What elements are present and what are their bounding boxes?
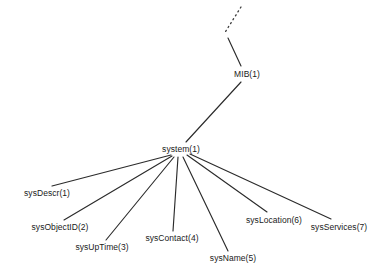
node-label-sysContact: sysContact(4)	[145, 233, 198, 243]
edge-ellipsis-up	[224, 7, 241, 34]
edge-system-sysContact	[173, 157, 178, 231]
edge-ellipsis-mib	[228, 38, 241, 66]
node-label-sysDescr: sysDescr(1)	[24, 188, 70, 198]
node-label-sysUpTime: sysUpTime(3)	[75, 242, 128, 252]
edge-system-sysObjectID	[64, 156, 172, 220]
mib-tree-diagram: MIB(1)system(1)sysDescr(1)sysObjectID(2)…	[0, 0, 381, 276]
edge-mib-system	[186, 82, 241, 142]
node-label-system: system(1)	[162, 144, 200, 154]
node-label-sysObjectID: sysObjectID(2)	[32, 222, 89, 232]
edge-system-sysServices	[190, 154, 331, 219]
node-label-sysServices: sysServices(7)	[311, 222, 367, 232]
node-label-mib: MIB(1)	[234, 69, 260, 79]
node-label-sysLocation: sysLocation(6)	[246, 215, 302, 225]
node-label-sysName: sysName(5)	[210, 253, 256, 263]
edge-system-sysDescr	[52, 155, 171, 186]
